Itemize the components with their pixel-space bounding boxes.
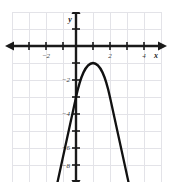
graph-figure: −2 2 4 −2 −4 −6 −8 x y [0, 0, 172, 190]
top-margin-mask [0, 0, 172, 12]
right-margin-mask [168, 0, 172, 190]
y-tick-label-neg2: −2 [62, 76, 71, 84]
x-tick-label-2: 2 [108, 52, 112, 60]
coordinate-plane: −2 2 4 −2 −4 −6 −8 x y [0, 0, 172, 190]
x-tick-label-4: 4 [142, 52, 146, 60]
left-margin-mask [0, 0, 4, 190]
y-tick-label-neg4: −4 [62, 110, 71, 118]
y-tick-label-neg8: −8 [62, 162, 71, 170]
x-tick-label-neg2: −2 [42, 52, 51, 60]
x-axis-title: x [153, 51, 158, 60]
y-axis-title: y [67, 15, 72, 24]
bottom-margin-mask [0, 182, 172, 190]
